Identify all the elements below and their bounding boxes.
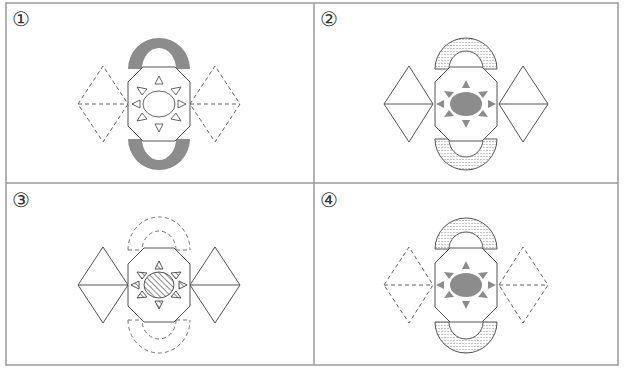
panel-3 [78, 217, 240, 353]
right-wing [499, 247, 548, 323]
left-wing [78, 66, 128, 142]
bottom-arch [435, 139, 497, 170]
panel-2-label: ② [320, 9, 338, 29]
bottom-arch [128, 320, 190, 353]
panel-4 [384, 218, 548, 353]
top-arch [435, 38, 497, 69]
panel-1-label: ① [12, 9, 30, 29]
top-arch [128, 38, 190, 69]
panel-1 [78, 38, 240, 170]
panel-2 [384, 38, 548, 170]
panel-3-label: ③ [12, 190, 30, 210]
right-wing [190, 247, 240, 323]
right-wing [499, 66, 548, 142]
panel-4-label: ④ [320, 190, 338, 210]
left-wing [78, 247, 128, 323]
figure-canvas [0, 0, 627, 371]
left-wing [384, 247, 433, 323]
bottom-arch [128, 139, 190, 170]
top-arch [128, 217, 190, 250]
bottom-arch [435, 322, 497, 353]
top-arch [435, 218, 497, 249]
right-wing [190, 66, 240, 142]
left-wing [384, 66, 433, 142]
